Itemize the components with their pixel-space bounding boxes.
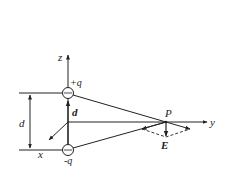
z-axis: z bbox=[57, 51, 68, 150]
separation-dimension: d bbox=[19, 95, 30, 148]
negative-charge-label: -q bbox=[64, 155, 72, 166]
dipole-moment-label: d bbox=[72, 106, 78, 118]
field-label: E bbox=[160, 139, 168, 151]
y-axis-label: y bbox=[209, 116, 215, 128]
y-axis: y bbox=[68, 116, 215, 128]
field-from-positive-vector bbox=[166, 122, 190, 129]
positive-charge: +q bbox=[63, 77, 82, 99]
point-p bbox=[165, 121, 167, 123]
negative-charge: -q bbox=[63, 145, 74, 167]
line-positive-to-p bbox=[73, 95, 166, 122]
dipole-diagram: z y x d d +q -q E bbox=[0, 0, 232, 177]
separation-label: d bbox=[19, 117, 25, 129]
z-axis-label: z bbox=[57, 51, 63, 63]
positive-charge-label: +q bbox=[70, 77, 82, 88]
field-from-negative-vector bbox=[142, 122, 166, 129]
point-p-label: P bbox=[164, 107, 172, 119]
